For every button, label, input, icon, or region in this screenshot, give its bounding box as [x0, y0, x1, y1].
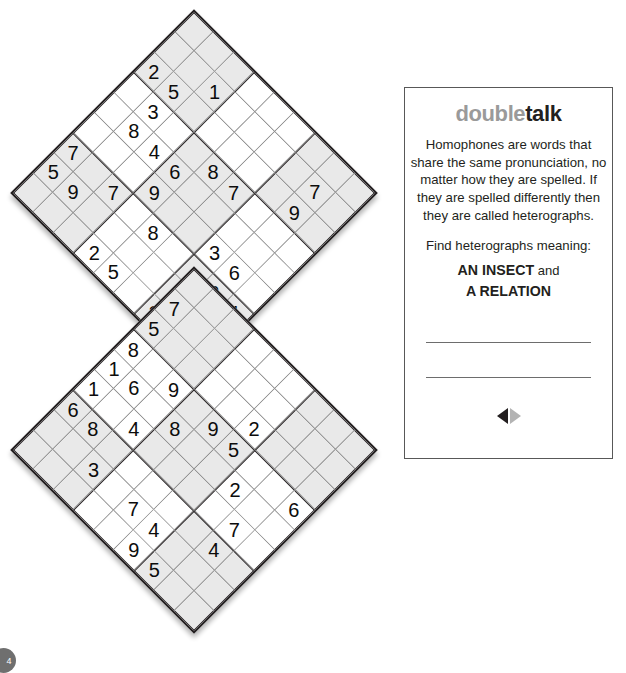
sudoku-clue-value: 1 [108, 359, 119, 379]
card-find-label: Find heterographs meaning: [426, 238, 591, 253]
sudoku-clue-value: 5 [108, 263, 119, 283]
sudoku-clue-value: 9 [208, 420, 219, 440]
sudoku-clue-value: 7 [229, 520, 240, 540]
sudoku-clue-value: 2 [149, 62, 160, 82]
sudoku-clue-value: 7 [68, 143, 79, 163]
sudoku-clue-value: 6 [128, 379, 139, 399]
sudoku-clue-value: 7 [108, 183, 119, 203]
sudoku-clue-value: 5 [228, 440, 239, 460]
next-arrow-icon[interactable] [510, 408, 521, 424]
sudoku-clue-value: 7 [128, 500, 139, 520]
sudoku-clue-value: 2 [229, 480, 240, 500]
answer-write-line-1[interactable] [426, 342, 591, 343]
sudoku-clue-value: 8 [88, 420, 99, 440]
sudoku-clue-value: 7 [228, 183, 239, 203]
sudoku-clue-value: 3 [209, 243, 220, 263]
sudoku-clue-value: 5 [149, 560, 160, 580]
sudoku-clue-value: 9 [128, 540, 139, 560]
sudoku-clue-value: 9 [68, 182, 79, 202]
card-description: Homophones are words that share the same… [411, 136, 607, 224]
card-answers: AN INSECT and A RELATION [458, 260, 560, 301]
sudoku-clue-value: 5 [149, 319, 160, 339]
bottom-sudoku-grid[interactable]: 75289956168214768437495 [10, 266, 378, 634]
sudoku-clue-value: 5 [48, 163, 59, 183]
page-number: 4 [0, 656, 12, 666]
sudoku-clue-value: 1 [88, 379, 99, 399]
sudoku-clue-value: 8 [128, 122, 139, 142]
sudoku-clue-value: 9 [289, 202, 300, 222]
card-title-double: double [455, 101, 525, 126]
sudoku-clue-value: 4 [148, 520, 159, 540]
sudoku-clue-value: 8 [148, 223, 159, 243]
sudoku-clue-value: 6 [68, 400, 79, 420]
sudoku-clue-value: 7 [169, 299, 180, 319]
answer-line-2: A RELATION [458, 281, 560, 302]
sudoku-clue-value: 8 [208, 163, 219, 183]
card-title: doubletalk [455, 101, 561, 127]
sudoku-clue-value: 2 [249, 419, 260, 439]
answer-write-line-2[interactable] [426, 377, 591, 378]
sudoku-clue-value: 6 [169, 163, 180, 183]
sudoku-clue-value: 6 [229, 263, 240, 283]
card-title-talk: talk [525, 101, 561, 126]
answer-1-text: AN INSECT [458, 262, 534, 278]
sudoku-clue-value: 8 [169, 420, 180, 440]
prev-arrow-icon[interactable] [497, 408, 508, 424]
sudoku-clue-value: 1 [209, 82, 220, 102]
sudoku-clue-value: 5 [168, 82, 179, 102]
sudoku-clue-value: 3 [88, 459, 99, 479]
page-number-badge: 4 [0, 648, 16, 673]
answer-2-text: A RELATION [466, 283, 551, 299]
card-arrows [497, 408, 521, 424]
sudoku-clue-value: 4 [148, 142, 159, 162]
sudoku-clue-value: 3 [148, 102, 159, 122]
sudoku-clue-value: 2 [88, 243, 99, 263]
answer-join: and [534, 263, 559, 278]
sudoku-clue-value: 4 [208, 540, 219, 560]
sudoku-clue-value: 7 [309, 182, 320, 202]
answer-line-1: AN INSECT and [458, 260, 560, 281]
doubletalk-card: doubletalk Homophones are words that sha… [404, 87, 613, 459]
sudoku-clue-value: 6 [289, 500, 300, 520]
sudoku-clue-value: 9 [168, 379, 179, 399]
sudoku-clue-value: 4 [128, 419, 139, 439]
sudoku-clue-value: 8 [128, 339, 139, 359]
sudoku-clue-value: 9 [149, 183, 160, 203]
